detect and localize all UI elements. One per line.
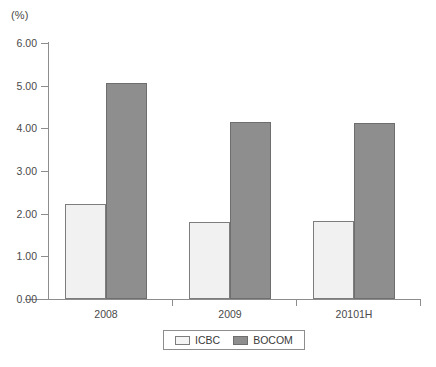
bar-chart: (%) 0.001.002.003.004.005.006.00 2008200… (0, 0, 436, 367)
y-axis-tick-mark (41, 171, 48, 172)
y-axis-tick-label: 3.00 (3, 165, 37, 177)
y-axis-tick-label: 5.00 (3, 80, 37, 92)
x-axis-category-label: 2009 (189, 308, 271, 320)
legend-item-label: ICBC (195, 334, 220, 346)
y-axis-tick-mark (41, 299, 48, 300)
bar-icbc-2009 (189, 222, 230, 299)
bar-bocom-20101H (354, 123, 395, 299)
bar-bocom-2009 (230, 122, 271, 299)
legend-item-bocom[interactable]: BOCOM (233, 334, 293, 346)
bar-bocom-2008 (106, 83, 147, 299)
x-axis-line (25, 299, 420, 300)
y-axis-tick-mark (41, 256, 48, 257)
x-axis-category-label: 20101H (313, 308, 395, 320)
chart-legend: ICBCBOCOM (163, 330, 305, 350)
legend-swatch-icon (233, 336, 248, 345)
y-axis-tick-mark (41, 128, 48, 129)
y-axis-tick-mark (41, 43, 48, 44)
y-axis-tick-label: 2.00 (3, 208, 37, 220)
y-axis-tick-label: 6.00 (3, 37, 37, 49)
y-axis-tick-label: 0.00 (3, 293, 37, 305)
y-axis-tick-mark (41, 86, 48, 87)
bar-icbc-2008 (65, 204, 106, 299)
legend-item-label: BOCOM (253, 334, 293, 346)
y-axis-tick-label: 4.00 (3, 122, 37, 134)
plot-area (48, 43, 420, 299)
y-axis-tick-mark (41, 214, 48, 215)
x-axis-tick-mark (420, 299, 421, 306)
y-axis-unit-label: (%) (11, 9, 29, 21)
legend-swatch-icon (175, 336, 190, 345)
bar-icbc-20101H (313, 221, 354, 300)
x-axis-category-label: 2008 (65, 308, 147, 320)
y-axis-tick-label: 1.00 (3, 250, 37, 262)
legend-item-icbc[interactable]: ICBC (175, 334, 220, 346)
x-axis-tick-mark (296, 299, 297, 306)
x-axis-tick-mark (172, 299, 173, 306)
